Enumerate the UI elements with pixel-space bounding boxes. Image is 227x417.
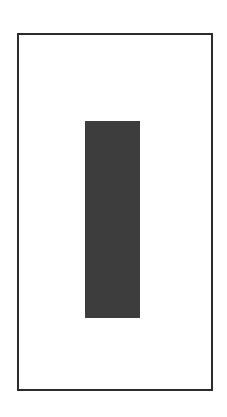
inner-dark-rectangle	[85, 121, 140, 318]
